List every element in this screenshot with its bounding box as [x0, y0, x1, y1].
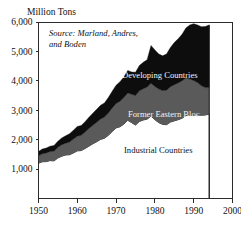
y-tick-label: 6,000 — [11, 17, 33, 27]
series-label-industrial-countries: Industrial Countries — [124, 145, 193, 155]
source-note-line2: and Boden — [49, 39, 86, 49]
y-tick-label: 4,000 — [11, 76, 33, 86]
x-tick-label: 1950 — [29, 206, 48, 216]
chart-canvas: 1,0002,0003,0004,0005,0006,0001950196019… — [0, 0, 241, 232]
x-tick-label: 1970 — [107, 206, 126, 216]
carbon-emissions-area-chart: 1,0002,0003,0004,0005,0006,0001950196019… — [0, 0, 241, 232]
y-tick-label: 3,000 — [11, 106, 33, 116]
series-label-developing-countries: Developing Countries — [122, 70, 198, 80]
source-note-line1: Source: Marland, Andres, — [49, 28, 138, 38]
series-label-former-eastern-bloc: Former Eastern Bloc — [128, 109, 200, 119]
y-tick-label: 2,000 — [11, 135, 33, 145]
y-tick-label: 1,000 — [11, 164, 33, 174]
x-tick-label: 2000 — [223, 206, 241, 216]
x-tick-label: 1960 — [68, 206, 87, 216]
x-tick-label: 1990 — [184, 206, 203, 216]
y-tick-label: 5,000 — [11, 47, 33, 57]
y-axis-unit-label: Million Tons — [27, 7, 76, 17]
x-tick-label: 1980 — [145, 206, 164, 216]
